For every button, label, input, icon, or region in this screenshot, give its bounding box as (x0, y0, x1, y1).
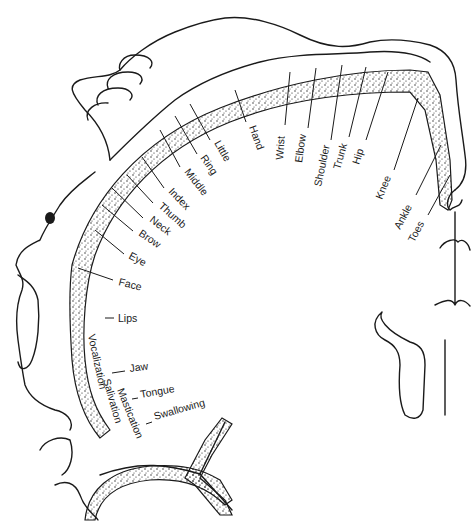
label-knee: Knee (373, 173, 393, 200)
label-face: Face (118, 275, 144, 292)
mouth-outline (18, 275, 39, 369)
leader-line-swallowing (146, 422, 152, 424)
label-toes: Toes (405, 219, 426, 244)
leader-line-tongue (132, 398, 138, 399)
right-lower-figure (375, 312, 445, 418)
label-elbow: Elbow (292, 133, 308, 163)
label-little: Little (212, 138, 234, 163)
right-upper-figure (435, 212, 470, 306)
label-jaw: Jaw (129, 359, 150, 374)
leader-line-knee (394, 98, 418, 170)
hand-fingers (87, 55, 152, 120)
cortex-band (70, 70, 452, 438)
label-shoulder: Shoulder (311, 143, 332, 187)
label-tongue: Tongue (139, 382, 175, 400)
label-wrist: Wrist (273, 136, 287, 161)
motor-homunculus-diagram: ToesAnkleKneeHipTrunkShoulderElbowWristH… (0, 0, 476, 522)
label-ring: Ring (198, 152, 220, 177)
label-trunk: Trunk (330, 141, 349, 170)
label-lips: Lips (118, 312, 137, 324)
label-hand: Hand (247, 124, 267, 152)
label-swallowing: Swallowing (152, 396, 206, 422)
label-eye: Eye (127, 249, 149, 268)
branch-structure (185, 418, 232, 515)
leader-line-jaw (112, 371, 125, 373)
label-hip: Hip (349, 147, 365, 166)
eye-icon (45, 212, 55, 224)
